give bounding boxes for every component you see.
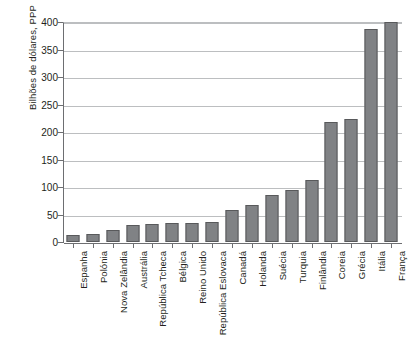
x-tick-mark (93, 243, 94, 248)
x-tick-mark (391, 243, 392, 248)
x-axis-category-label: Finlândia (317, 251, 328, 345)
x-axis-category-label: Coreia (336, 251, 347, 345)
y-tick-label: 350 (18, 44, 58, 55)
x-axis-category-label: Austrália (138, 251, 149, 345)
x-tick-mark (73, 243, 74, 248)
bar-slot (262, 22, 282, 242)
bar-slot (162, 22, 182, 242)
bar[interactable] (86, 234, 99, 242)
bar-slot (222, 22, 242, 242)
x-axis-category-label: República Eslovaca (217, 251, 228, 345)
y-tick-label: 150 (18, 154, 58, 165)
bar-slot (361, 22, 381, 242)
x-axis-category-label: Bélgica (177, 251, 188, 345)
bar-slot (202, 22, 222, 242)
x-tick-mark (152, 243, 153, 248)
bar[interactable] (325, 122, 338, 242)
bar-slot (123, 22, 143, 242)
x-axis-category-label: República Tcheca (157, 251, 168, 345)
bar[interactable] (126, 225, 139, 242)
x-axis-category-label: Suécia (277, 251, 288, 345)
bar[interactable] (285, 190, 298, 242)
x-tick-mark (371, 243, 372, 248)
x-axis-category-label: Espanha (78, 251, 89, 345)
x-axis-category-label: Canadá (237, 251, 248, 345)
bar-slot (341, 22, 361, 242)
x-tick-mark (172, 243, 173, 248)
bar-slot (103, 22, 123, 242)
bars-group (63, 22, 401, 242)
y-tick-label: 200 (18, 127, 58, 138)
bar[interactable] (66, 235, 79, 242)
bar-slot (143, 22, 163, 242)
y-tick-label: 0 (18, 237, 58, 248)
x-axis-labels: EspanhaPolóniaNova ZelândiaAustráliaRepú… (63, 249, 401, 344)
x-tick-mark (351, 243, 352, 248)
bar[interactable] (245, 205, 258, 242)
x-tick-mark (232, 243, 233, 248)
x-tick-mark (292, 243, 293, 248)
x-axis-category-label: Reino Unido (197, 251, 208, 345)
bar[interactable] (206, 222, 219, 242)
x-tick-mark (331, 243, 332, 248)
y-tick-label: 400 (18, 17, 58, 28)
bar[interactable] (146, 224, 159, 242)
bar-chart: Bilhões de dólares, PPP 4003503002502001… (0, 0, 416, 346)
bar-slot (381, 22, 401, 242)
x-axis-category-label: Polónia (98, 251, 109, 345)
x-axis-category-label: Nova Zelândia (118, 251, 129, 345)
bar-slot (83, 22, 103, 242)
bar[interactable] (166, 223, 179, 242)
bar[interactable] (365, 29, 378, 242)
bar-slot (242, 22, 262, 242)
x-tick-mark (312, 243, 313, 248)
y-tick-label: 50 (18, 209, 58, 220)
bar-slot (302, 22, 322, 242)
x-axis-category-label: Holanda (257, 251, 268, 345)
bar[interactable] (385, 22, 398, 242)
bar-slot (182, 22, 202, 242)
bar[interactable] (265, 195, 278, 242)
bar-slot (321, 22, 341, 242)
bar[interactable] (305, 180, 318, 242)
bar[interactable] (186, 223, 199, 242)
y-tick-label: 250 (18, 99, 58, 110)
y-tick-label: 300 (18, 72, 58, 83)
bar-slot (63, 22, 83, 242)
bar[interactable] (106, 230, 119, 242)
x-tick-mark (272, 243, 273, 248)
x-axis-category-label: Turquia (297, 251, 308, 345)
x-tick-mark (133, 243, 134, 248)
bar-slot (282, 22, 302, 242)
x-tick-mark (212, 243, 213, 248)
x-axis-category-label: Itália (376, 251, 387, 345)
x-tick-mark (113, 243, 114, 248)
bar[interactable] (345, 119, 358, 242)
x-tick-mark (192, 243, 193, 248)
x-tick-mark (252, 243, 253, 248)
x-axis-category-label: Grécia (356, 251, 367, 345)
y-tick-label: 100 (18, 182, 58, 193)
bar[interactable] (225, 210, 238, 242)
x-axis-category-label: França (396, 251, 407, 345)
